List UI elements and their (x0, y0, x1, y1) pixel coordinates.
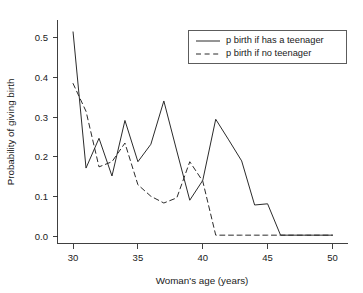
y-tick-label: 0.4 (35, 72, 48, 83)
x-axis-ticks: 3035404550 (68, 244, 338, 264)
y-axis-ticks: 0.00.10.20.30.40.5 (35, 32, 58, 241)
x-axis-title: Woman's age (years) (156, 275, 249, 286)
x-tick-label: 45 (262, 252, 273, 263)
y-tick-label: 0.2 (35, 151, 48, 162)
legend-label-1: p birth if has a teenager (226, 35, 324, 45)
legend-label-2: p birth if no teenager (226, 48, 311, 58)
x-tick-label: 50 (327, 252, 338, 263)
y-tick-label: 0.3 (35, 112, 48, 123)
x-tick-label: 35 (133, 252, 144, 263)
y-tick-label: 0.5 (35, 32, 48, 43)
legend: p birth if has a teenagerp birth if no t… (189, 31, 347, 64)
y-tick-label: 0.0 (35, 231, 48, 242)
y-tick-label: 0.1 (35, 191, 48, 202)
line-chart: 0.00.10.20.30.40.5 3035404550 Woman's ag… (0, 0, 363, 293)
series-line-2 (73, 84, 332, 236)
x-tick-label: 30 (68, 252, 79, 263)
y-axis-title: Probability of giving birth (5, 79, 16, 186)
figure-container: 0.00.10.20.30.40.5 3035404550 Woman's ag… (0, 0, 363, 293)
x-tick-label: 40 (197, 252, 208, 263)
